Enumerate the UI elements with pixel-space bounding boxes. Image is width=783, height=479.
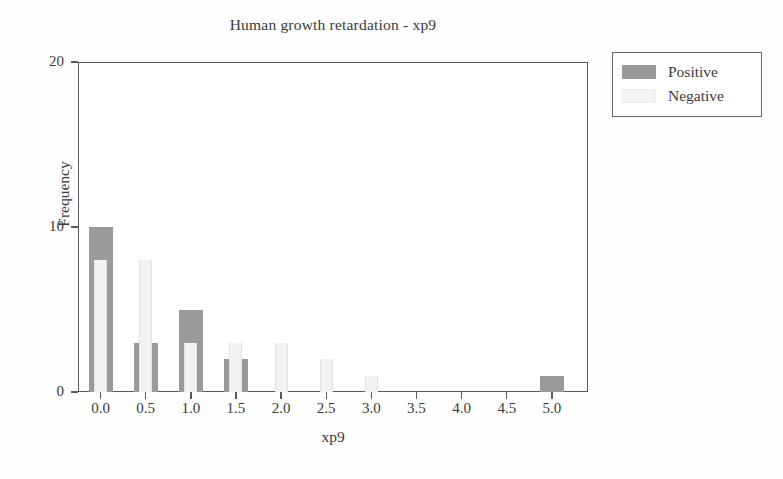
x-axis-tick-label: 5.0 — [527, 401, 577, 416]
bar-negative — [139, 260, 152, 392]
x-axis-tick-mark — [280, 392, 281, 399]
legend-swatch-positive — [622, 65, 656, 79]
bar-negative — [275, 343, 288, 393]
legend-row[interactable]: Negative — [622, 84, 752, 108]
y-axis-tick-label: 0 — [22, 384, 64, 399]
legend-swatch-negative — [622, 89, 656, 103]
x-axis-tick-mark — [506, 392, 507, 399]
x-axis-tick-mark — [190, 392, 191, 399]
chart-legend: PositiveNegative — [612, 52, 762, 117]
y-axis-label: Frequency — [55, 114, 73, 274]
x-axis-tick-label: 0.0 — [76, 401, 126, 416]
x-axis-label: xp9 — [78, 428, 588, 446]
chart-figure: Human growth retardation - xp9 010200.00… — [0, 0, 783, 479]
legend-label: Positive — [668, 64, 718, 80]
bar-negative — [229, 343, 242, 393]
x-axis-tick-label: 3.0 — [346, 401, 396, 416]
bar-negative — [365, 376, 378, 393]
x-axis-tick-label: 4.0 — [437, 401, 487, 416]
x-axis-tick-label: 3.5 — [391, 401, 441, 416]
x-axis-tick-mark — [461, 392, 462, 399]
bar-negative — [94, 260, 107, 392]
x-axis-tick-label: 2.5 — [301, 401, 351, 416]
y-axis-tick-mark — [71, 391, 78, 392]
x-axis-tick-mark — [551, 392, 552, 399]
y-axis-tick-mark — [71, 61, 78, 62]
y-axis-tick-label: 20 — [22, 54, 64, 69]
x-axis-tick-mark — [145, 392, 146, 399]
x-axis-tick-mark — [326, 392, 327, 399]
x-axis-tick-label: 4.5 — [482, 401, 532, 416]
x-axis-tick-mark — [416, 392, 417, 399]
x-axis-tick-mark — [100, 392, 101, 399]
x-axis-tick-mark — [235, 392, 236, 399]
bar-positive — [540, 376, 564, 393]
bar-negative — [184, 343, 197, 393]
x-axis-tick-mark — [371, 392, 372, 399]
x-axis-tick-label: 1.5 — [211, 401, 261, 416]
x-axis-tick-label: 0.5 — [121, 401, 171, 416]
x-axis-tick-label: 1.0 — [166, 401, 216, 416]
x-axis-tick-label: 2.0 — [256, 401, 306, 416]
legend-row[interactable]: Positive — [622, 60, 752, 84]
plot-area — [78, 62, 588, 392]
bar-negative — [320, 359, 333, 392]
legend-label: Negative — [668, 88, 724, 104]
chart-title: Human growth retardation - xp9 — [78, 16, 588, 34]
